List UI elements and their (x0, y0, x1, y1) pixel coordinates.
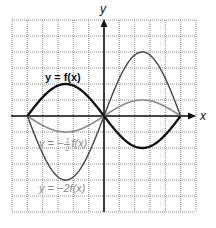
y-axis-label: y (100, 3, 106, 15)
legend-label-f: y = f(x) (45, 72, 81, 83)
fraction-numerator: 1 (64, 137, 70, 145)
fraction-one-half: 12 (64, 137, 70, 152)
x-axis-label: x (200, 110, 206, 122)
legend-label-neg-2f: y = −2f(x) (39, 183, 85, 194)
label-suffix: f(x) (71, 137, 87, 149)
label-prefix: y = − (39, 137, 63, 149)
legend-label-neg-half-f: y = −12f(x) (39, 137, 87, 152)
x-axis-arrow-icon (188, 113, 196, 120)
function-graph (0, 0, 216, 228)
fraction-denominator: 2 (64, 145, 70, 152)
